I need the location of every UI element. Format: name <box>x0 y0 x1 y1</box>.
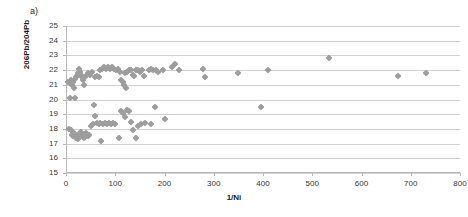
y-tick-label: 21 <box>0 80 58 89</box>
y-tick-mark <box>63 158 66 159</box>
y-axis-ticks: 1516171819202122232425 <box>0 26 468 173</box>
x-tick-mark <box>263 173 264 176</box>
x-tick-label: 400 <box>256 179 269 188</box>
x-tick-mark <box>411 173 412 176</box>
x-tick-label: 300 <box>207 179 220 188</box>
x-axis-title: 1/Ni <box>0 193 468 202</box>
y-tick-mark <box>63 114 66 115</box>
y-tick-label: 18 <box>0 124 58 133</box>
y-tick-label: 17 <box>0 139 58 148</box>
x-tick-label: 100 <box>109 179 122 188</box>
figure-panel: a) 206Pb/204Pb 1516171819202122232425 01… <box>0 0 468 217</box>
x-axis-ticks: 0100200300400500600700800 <box>66 173 460 195</box>
y-tick-mark <box>63 70 66 71</box>
x-tick-mark <box>115 173 116 176</box>
x-tick-mark <box>362 173 363 176</box>
x-tick-label: 200 <box>158 179 171 188</box>
x-tick-label: 600 <box>355 179 368 188</box>
y-tick-mark <box>63 41 66 42</box>
y-tick-label: 25 <box>0 21 58 30</box>
y-tick-label: 22 <box>0 65 58 74</box>
x-tick-label: 800 <box>453 179 466 188</box>
x-tick-mark <box>214 173 215 176</box>
x-tick-mark <box>460 173 461 176</box>
x-tick-label: 500 <box>306 179 319 188</box>
x-tick-label: 700 <box>404 179 417 188</box>
y-tick-mark <box>63 100 66 101</box>
x-tick-mark <box>165 173 166 176</box>
y-tick-mark <box>63 26 66 27</box>
y-tick-label: 16 <box>0 153 58 162</box>
x-tick-mark <box>66 173 67 176</box>
y-tick-mark <box>63 144 66 145</box>
x-tick-label: 0 <box>64 179 68 188</box>
y-tick-mark <box>63 85 66 86</box>
y-tick-mark <box>63 55 66 56</box>
y-tick-label: 23 <box>0 50 58 59</box>
y-tick-label: 19 <box>0 109 58 118</box>
y-tick-label: 24 <box>0 36 58 45</box>
x-tick-mark <box>312 173 313 176</box>
y-tick-label: 20 <box>0 95 58 104</box>
y-tick-label: 15 <box>0 168 58 177</box>
y-tick-mark <box>63 129 66 130</box>
